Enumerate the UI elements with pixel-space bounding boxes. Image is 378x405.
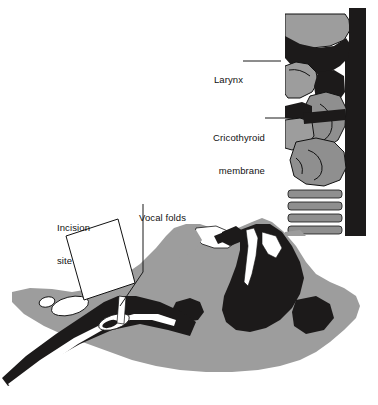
larynx-sagittal-inset <box>285 8 378 236</box>
label-vocal-folds-line-1: Vocal folds <box>139 212 186 223</box>
label-vocal-folds: Vocal folds <box>139 190 186 245</box>
label-cricothyroid-membrane-line-1: Cricothyroid <box>175 132 265 143</box>
label-cricothyroid-membrane-line-2: membrane <box>175 165 265 176</box>
incision-marker <box>117 296 126 324</box>
inset-cricoid-cartilage <box>290 138 346 186</box>
inset-tracheal-ring-2 <box>288 202 342 210</box>
illustration-figure: Larynx Cricothyroid membrane Vocal folds… <box>0 0 378 405</box>
inset-tracheal-ring-1 <box>288 190 342 198</box>
label-incision-site: Incision site <box>57 200 90 288</box>
label-larynx-line-1: Larynx <box>183 74 243 85</box>
label-incision-site-line-1: Incision <box>57 222 90 233</box>
label-cricothyroid-membrane: Cricothyroid membrane <box>175 110 265 198</box>
label-larynx: Larynx <box>183 52 243 107</box>
label-incision-site-line-2: site <box>57 255 90 266</box>
inset-tracheal-ring-3 <box>288 214 342 222</box>
